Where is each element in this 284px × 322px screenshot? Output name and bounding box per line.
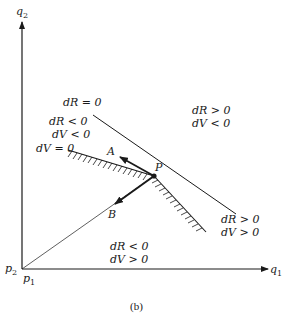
- dV-zero-label: dV = 0: [36, 142, 74, 155]
- region-upper-right-dR: dR > 0: [192, 104, 231, 117]
- region-upper-left-dR: dR < 0: [49, 115, 88, 128]
- region-upper-left-dV: dV < 0: [52, 128, 90, 141]
- region-lower-right-dV: dV > 0: [221, 226, 259, 239]
- dV-zero-line: [68, 150, 206, 232]
- point-P-label: P: [154, 161, 163, 174]
- region-lower-right-dR: dR > 0: [221, 213, 260, 226]
- point-A-label: A: [106, 145, 115, 158]
- arrow-B: [115, 176, 154, 204]
- x-axis-label: q1: [270, 263, 282, 278]
- region-upper-right-dV: dV < 0: [192, 117, 230, 130]
- diagram-canvas: q2 q1 p2 p1 dR = 0 dV = 0 dR < 0 dV < 0 …: [0, 0, 284, 322]
- y-axis-label: q2: [16, 5, 28, 20]
- point-P: [151, 173, 156, 178]
- region-lower-left-dR: dR < 0: [110, 240, 149, 253]
- point-B-label: B: [107, 208, 116, 221]
- region-lower-left-dV: dV > 0: [110, 253, 148, 266]
- origin-p2-label: p2: [5, 262, 17, 277]
- origin-p1-label: p1: [23, 272, 35, 287]
- figure-caption: (b): [130, 300, 143, 313]
- dR-zero-label: dR = 0: [63, 96, 102, 109]
- arrow-A: [120, 157, 154, 176]
